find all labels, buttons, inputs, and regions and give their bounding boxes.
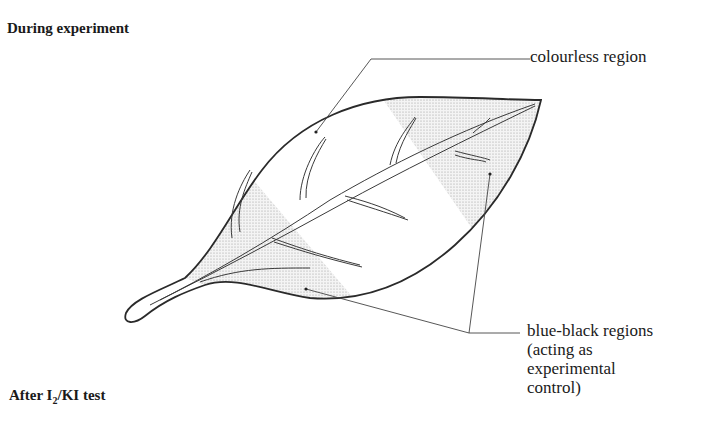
blue-black-regions — [180, 95, 560, 300]
pointer-dot-colourless — [314, 130, 317, 133]
pointer-dot-tip — [488, 172, 491, 175]
label-line-4: control) — [527, 378, 653, 397]
stipple-region-base — [180, 170, 355, 300]
label-blue-black-regions: blue-black regions (acting as experiment… — [527, 321, 653, 397]
label-colourless-region: colourless region — [530, 47, 647, 66]
stipple-region-tip — [380, 95, 560, 240]
label-line-3: experimental — [527, 359, 653, 378]
label-line-1: blue-black regions — [527, 321, 653, 340]
label-line-2: (acting as — [527, 340, 653, 359]
pointer-dot-base — [304, 287, 307, 290]
